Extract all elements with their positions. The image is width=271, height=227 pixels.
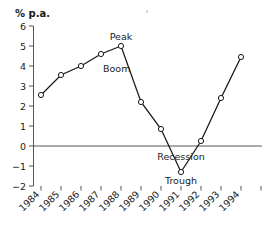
chart-canvas: % p.a. 6 5 4 3 2 1 0 −1 −2	[0, 0, 271, 227]
x-tick-label-1986: 1986	[57, 189, 82, 214]
annotation-peak: Peak	[110, 31, 133, 42]
data-point-1991	[178, 169, 183, 174]
economic-cycle-line-chart: % p.a. 6 5 4 3 2 1 0 −1 −2	[0, 0, 271, 227]
annotation-boom: Boom	[103, 63, 130, 74]
y-axis-title: % p.a.	[15, 8, 50, 19]
x-tick-label-1993: 1993	[197, 189, 222, 214]
y-tick-label-3: 3	[20, 81, 26, 92]
x-tick-label-1991: 1991	[157, 189, 182, 214]
y-tick-label-1: 1	[20, 121, 26, 132]
data-point-markers	[38, 43, 243, 174]
speck-artifact	[146, 10, 148, 13]
x-tick-label-1990: 1990	[137, 189, 162, 214]
y-tick-label-2: 2	[20, 101, 26, 112]
y-tick-label-4: 4	[20, 61, 26, 72]
data-point-1990	[158, 126, 163, 131]
annotation-recession: Recession	[157, 151, 204, 162]
y-tick-label-neg2: −2	[12, 181, 26, 192]
data-point-1992	[198, 138, 203, 143]
y-tick-group: 6 5 4 3 2 1 0 −1 −2	[12, 21, 34, 192]
x-tick-label-1984: 1984	[17, 189, 42, 214]
data-point-1986	[78, 63, 83, 68]
x-tick-label-1988: 1988	[97, 189, 122, 214]
data-point-1988	[118, 43, 123, 48]
data-point-1985	[58, 72, 63, 77]
data-point-1994	[238, 54, 243, 59]
series-line-growth-rate	[41, 46, 241, 172]
y-tick-label-5: 5	[20, 41, 26, 52]
data-point-1984	[38, 92, 43, 97]
y-tick-label-neg1: −1	[12, 161, 26, 172]
x-tick-label-1994: 1994	[217, 189, 242, 214]
y-tick-label-6: 6	[20, 21, 26, 32]
data-point-1989	[138, 99, 143, 104]
data-point-1987	[98, 51, 103, 56]
data-point-1993	[218, 95, 223, 100]
x-tick-label-1985: 1985	[37, 189, 62, 214]
x-tick-label-1992: 1992	[177, 189, 202, 214]
annotation-trough: Trough	[164, 175, 197, 186]
x-tick-label-1987: 1987	[77, 189, 102, 214]
y-tick-label-0: 0	[20, 141, 26, 152]
x-tick-label-1989: 1989	[117, 189, 142, 214]
x-tick-label-group: 1984 1985 1986 1987 1988 1989 1990 1991 …	[17, 189, 242, 214]
